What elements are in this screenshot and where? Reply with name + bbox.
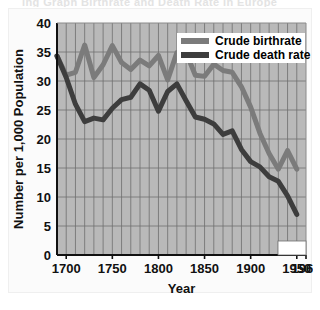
x-tick-label: 1750	[98, 261, 127, 276]
legend-swatch	[181, 38, 209, 44]
line-chart-svg: 0510152025303540 17001750180018501900195…	[9, 9, 313, 294]
y-tick-label: 40	[37, 16, 51, 31]
y-tick-label: 15	[37, 161, 51, 176]
legend-swatch	[181, 52, 209, 58]
y-tick-label: 5	[44, 219, 51, 234]
top-caption-sliver: ing Graph Birthrate and Death Rate in Eu…	[0, 0, 320, 7]
legend-label: Crude death rate	[215, 48, 311, 62]
x-tick-label: 1800	[144, 261, 173, 276]
y-tick-label: 10	[37, 190, 51, 205]
y-tick-label: 25	[37, 103, 51, 118]
y-tick-label: 30	[37, 74, 51, 89]
y-axis-tick-labels: 0510152025303540	[37, 16, 51, 263]
x-tick-label: 1960	[292, 261, 313, 276]
x-tick-label: 1850	[190, 261, 219, 276]
legend-label: Crude birthrate	[215, 34, 302, 48]
y-axis-title: Number per 1,000 Population	[11, 49, 26, 229]
x-tick-label: 1900	[236, 261, 265, 276]
y-tick-label: 35	[37, 45, 51, 60]
y-tick-label: 0	[44, 248, 51, 263]
y-tick-label: 20	[37, 132, 51, 147]
chart-legend: Crude birthrateCrude death rate	[177, 33, 311, 63]
x-tick-label: 1700	[52, 261, 81, 276]
x-axis-tick-labels: 1700175018001850190019501960	[52, 261, 313, 276]
corner-notch	[278, 241, 306, 255]
chart-figure: ing Graph Birthrate and Death Rate in Eu…	[0, 0, 320, 310]
chart-panel: 0510152025303540 17001750180018501900195…	[8, 8, 312, 293]
top-caption-text: ing Graph Birthrate and Death Rate in Eu…	[22, 0, 320, 7]
x-axis-title: Year	[168, 281, 195, 294]
